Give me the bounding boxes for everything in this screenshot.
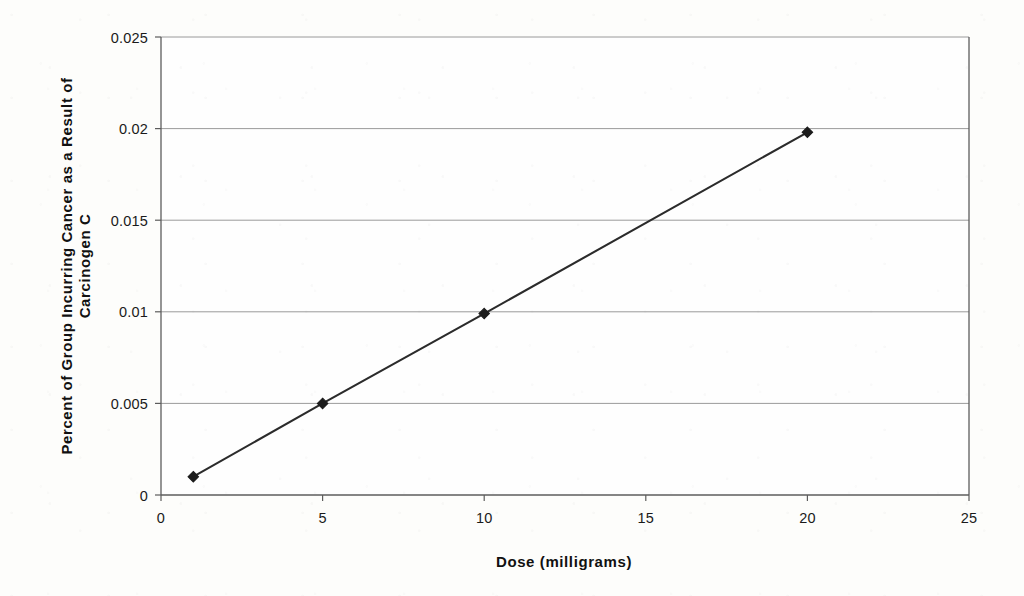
x-tick-label-0: 0: [157, 510, 165, 526]
x-tick-label-10: 10: [476, 510, 493, 526]
y-axis-title-line1: Percent of Group Incurring Cancer as a R…: [58, 77, 75, 455]
x-tick-labels: 0 5 10 15 20 25: [157, 510, 977, 526]
y-axis-title-line2: Carcinogen C: [76, 214, 93, 319]
x-tick-label-25: 25: [961, 510, 978, 526]
chart-figure: 0.025 0.02 0.015 0.01 0.005 0 0 5 10 15 …: [0, 0, 1024, 596]
x-axis-title: Dose (milligrams): [496, 553, 632, 570]
x-tick-label-5: 5: [318, 510, 326, 526]
y-tick-label-0.01: 0.01: [119, 304, 148, 320]
y-tick-marks: [155, 37, 161, 495]
y-tick-label-0.02: 0.02: [119, 121, 148, 137]
y-axis-title: Percent of Group Incurring Cancer as a R…: [58, 77, 93, 455]
x-tick-label-20: 20: [799, 510, 816, 526]
y-tick-label-0.005: 0.005: [111, 396, 148, 412]
x-tick-label-15: 15: [638, 510, 655, 526]
line-chart: 0.025 0.02 0.015 0.01 0.005 0 0 5 10 15 …: [0, 0, 1024, 596]
x-tick-marks: [161, 495, 969, 501]
y-tick-label-0: 0: [140, 488, 148, 504]
y-tick-label-0.015: 0.015: [111, 213, 148, 229]
y-tick-label-0.025: 0.025: [111, 30, 148, 46]
y-tick-labels: 0.025 0.02 0.015 0.01 0.005 0: [111, 30, 148, 504]
